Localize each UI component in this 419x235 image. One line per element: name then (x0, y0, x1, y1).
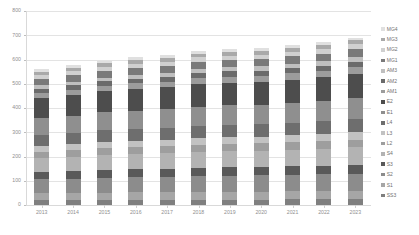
bar-segment-MG1 (285, 56, 300, 64)
bar-group-2014 (66, 11, 81, 205)
legend-item-S4[interactable]: S4 (381, 149, 419, 159)
bar-group-2017 (160, 11, 175, 205)
legend-item-E2[interactable]: E2 (381, 97, 419, 107)
legend-item-MG4[interactable]: MG4 (381, 24, 419, 34)
stacked-bar (348, 38, 363, 205)
bar-segment-S2 (254, 175, 269, 191)
bar-segment-E1 (66, 116, 81, 133)
bar-segment-E2 (222, 83, 237, 106)
bar-segment-E2 (285, 80, 300, 103)
legend-swatch-icon (381, 194, 385, 198)
bar-segment-L2 (316, 141, 331, 149)
bar-group-2016 (128, 11, 143, 205)
bar-segment-S2 (285, 175, 300, 191)
bar-segment-S2 (128, 177, 143, 192)
bar-segment-S4 (34, 158, 49, 172)
legend-item-L4[interactable]: L4 (381, 118, 419, 128)
legend-item-S3[interactable]: S3 (381, 159, 419, 169)
bar-group-2018 (191, 11, 206, 205)
bar-segment-L4 (97, 130, 112, 141)
bar-segment-S1 (254, 192, 269, 200)
bar-segment-S3 (191, 168, 206, 176)
x-axis-tick-label: 2017 (155, 210, 179, 215)
bar-segment-L4 (160, 128, 175, 140)
legend-label: S2 (387, 172, 393, 177)
bar-segment-S4 (285, 150, 300, 166)
bar-segment-S2 (34, 179, 49, 193)
bar-group-2023 (348, 11, 363, 205)
legend-item-S2[interactable]: S2 (381, 169, 419, 179)
stacked-bar (34, 69, 49, 205)
legend-label: L3 (387, 131, 393, 136)
y-axis-tick-label: 100 (2, 178, 21, 183)
legend-item-AM1[interactable]: AM1 (381, 86, 419, 96)
legend-item-MG3[interactable]: MG3 (381, 34, 419, 44)
chart-legend: MG4MG3MG2MG1AM3AM2AM1E2E1L4L3L2S4S3S2S1S… (381, 24, 419, 201)
x-axis-tick-label: 2023 (343, 210, 367, 215)
bar-group-2013 (34, 11, 49, 205)
bar-segment-L4 (285, 123, 300, 136)
bar-segment-S2 (160, 177, 175, 193)
bar-segment-S4 (128, 154, 143, 169)
legend-swatch-icon (381, 162, 385, 166)
stacked-bar (254, 48, 269, 205)
bar-segment-L2 (97, 148, 112, 155)
bar-segment-S1 (191, 192, 206, 200)
bar-segment-E2 (34, 98, 49, 118)
bar-segment-S1 (316, 191, 331, 199)
bar-segment-E2 (97, 91, 112, 112)
bar-segment-L4 (222, 125, 237, 137)
stacked-bar (222, 49, 237, 205)
bar-segment-L4 (34, 135, 49, 146)
bar-segment-S1 (160, 192, 175, 200)
legend-swatch-icon (381, 183, 385, 187)
bar-group-2020 (254, 11, 269, 205)
legend-item-S1[interactable]: S1 (381, 180, 419, 190)
y-axis-tick-label: 300 (2, 130, 21, 135)
legend-item-AM2[interactable]: AM2 (381, 76, 419, 86)
bar-segment-E1 (254, 105, 269, 125)
legend-swatch-icon (381, 142, 385, 146)
legend-item-MG2[interactable]: MG2 (381, 45, 419, 55)
x-axis-tick-label: 2016 (124, 210, 148, 215)
legend-item-AM3[interactable]: AM3 (381, 66, 419, 76)
legend-label: AM1 (387, 89, 397, 94)
legend-item-SS3[interactable]: SS3 (381, 190, 419, 200)
bar-segment-MG1 (254, 59, 269, 66)
bar-segment-S3 (160, 169, 175, 177)
bar-segment-MG1 (160, 66, 175, 73)
bar-segment-E2 (128, 89, 143, 111)
bar-segment-L2 (191, 145, 206, 152)
legend-item-L2[interactable]: L2 (381, 138, 419, 148)
bar-segment-S3 (97, 170, 112, 178)
bar-segment-L4 (66, 133, 81, 144)
bar-segment-L3 (348, 132, 363, 139)
x-tick-2019 (230, 205, 231, 208)
legend-label: S3 (387, 162, 393, 167)
x-axis-tick-label: 2018 (187, 210, 211, 215)
bar-segment-E1 (128, 111, 143, 129)
bar-segment-L2 (285, 142, 300, 150)
bar-segment-E1 (348, 98, 363, 119)
bar-segment-S4 (66, 157, 81, 172)
stacked-bar (66, 65, 81, 205)
x-tick-2023 (355, 205, 356, 208)
legend-swatch-icon (381, 27, 385, 31)
x-axis-tick-label: 2014 (61, 210, 85, 215)
legend-label: S1 (387, 183, 393, 188)
legend-swatch-icon (381, 100, 385, 104)
legend-item-L3[interactable]: L3 (381, 128, 419, 138)
legend-item-MG1[interactable]: MG1 (381, 55, 419, 65)
legend-swatch-icon (381, 131, 385, 135)
bar-segment-L2 (348, 140, 363, 148)
bar-segment-L4 (128, 129, 143, 141)
legend-swatch-icon (381, 69, 385, 73)
bar-segment-S4 (191, 152, 206, 168)
bar-segment-L3 (316, 134, 331, 141)
bar-segment-E2 (66, 95, 81, 115)
legend-item-E1[interactable]: E1 (381, 107, 419, 117)
legend-swatch-icon (381, 48, 385, 52)
bar-segment-S3 (66, 171, 81, 179)
bar-group-2021 (285, 11, 300, 205)
bar-segment-E2 (254, 82, 269, 105)
